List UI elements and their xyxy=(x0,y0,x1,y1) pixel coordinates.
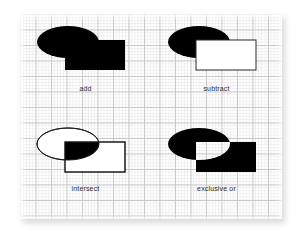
operation-label-intersect: intersect xyxy=(20,185,151,192)
add-shape-art xyxy=(20,14,151,86)
exclusive-or-symmetric-difference-fill xyxy=(151,116,282,186)
graph-paper-panel: add subtract xyxy=(20,14,282,219)
operation-cell-subtract[interactable]: subtract xyxy=(151,14,282,116)
intersect-shape-art xyxy=(20,116,151,186)
operation-cell-exclusive-or[interactable]: exclusive or xyxy=(151,116,282,218)
subtract-shape-art xyxy=(151,14,282,86)
add-union-fill xyxy=(20,14,151,86)
operation-cell-add[interactable]: add xyxy=(20,14,151,116)
subtract-cutting-rect xyxy=(196,40,256,70)
operation-label-exclusive-or: exclusive or xyxy=(151,185,282,192)
operation-cell-intersect[interactable]: intersect xyxy=(20,116,151,218)
boolean-operations-figure: add subtract xyxy=(0,0,300,242)
operation-label-subtract: subtract xyxy=(151,85,282,92)
operation-label-add: add xyxy=(20,85,151,92)
exclusive-or-shape-art xyxy=(151,116,282,186)
